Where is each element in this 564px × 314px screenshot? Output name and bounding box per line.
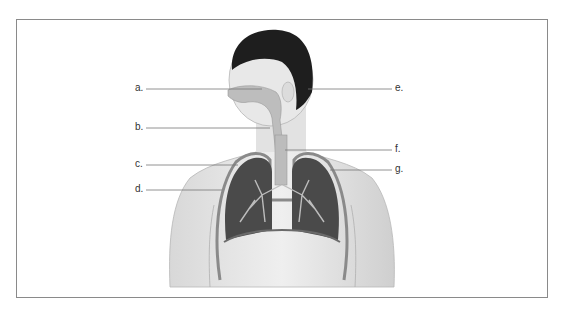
label-a: a.: [135, 83, 143, 93]
label-e: e.: [395, 83, 403, 93]
label-c: c.: [135, 159, 143, 169]
label-b: b.: [135, 122, 143, 132]
respiratory-illustration: [0, 0, 564, 314]
label-d: d.: [135, 184, 143, 194]
label-g: g.: [395, 164, 403, 174]
trachea: [275, 135, 287, 185]
label-f: f.: [395, 144, 401, 154]
